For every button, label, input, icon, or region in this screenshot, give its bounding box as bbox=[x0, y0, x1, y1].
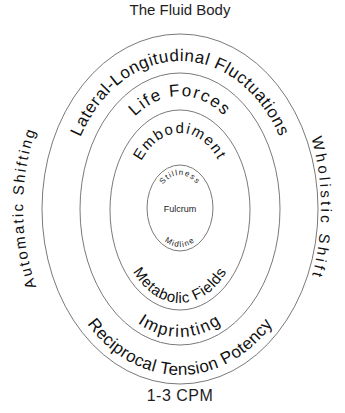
fluid-body-diagram: The Fluid Body Automatic Shifting bbox=[0, 0, 345, 413]
diagram-footer-rate: 1-3 CPM bbox=[0, 387, 345, 405]
label-life-forces: Life Forces bbox=[125, 81, 235, 120]
label-fulcrum: Fulcrum bbox=[164, 204, 197, 214]
label-automatic-shifting: Automatic Shifting bbox=[9, 125, 39, 291]
label-embodiment: Embodiment bbox=[129, 119, 231, 163]
label-imprinting: Imprinting bbox=[135, 310, 224, 341]
label-midline: Midline bbox=[163, 235, 196, 249]
label-metabolic-fields: Metabolic Fields bbox=[130, 264, 229, 306]
concentric-ellipses: Automatic Shifting Wholistic Shift Later… bbox=[0, 0, 345, 413]
